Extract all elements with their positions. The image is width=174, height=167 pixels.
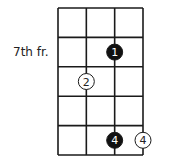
fretboard-grid [58,8,143,155]
finger-number: 4 [111,134,118,147]
finger-dot-filled: 1 [107,44,123,60]
chord-diagram: 7th fr. 1244 [0,0,174,167]
finger-number: 1 [111,46,118,59]
finger-number: 4 [140,134,147,147]
finger-number: 2 [83,76,90,89]
finger-dot-open: 2 [78,74,94,90]
finger-dot-filled: 4 [107,132,123,148]
finger-dot-open: 4 [135,132,151,148]
fret-position-label: 7th fr. [13,45,49,59]
